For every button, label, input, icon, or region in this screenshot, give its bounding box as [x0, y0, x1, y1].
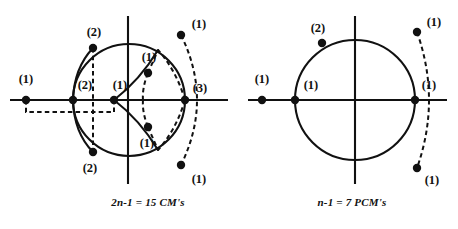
- inner-axis-point-multiplicity-label: (1): [113, 78, 128, 92]
- circle-bottom-left-point-multiplicity-label: (2): [83, 161, 98, 175]
- left-panel-caption: 2n-1 = 15 CM's: [110, 196, 185, 208]
- outer-left-point-multiplicity-label: (1): [255, 72, 270, 86]
- upper-right-outer-point-multiplicity-label: (1): [192, 17, 207, 31]
- upper-inner-point: [144, 69, 152, 77]
- outer-left-point-multiplicity-label: (1): [19, 72, 34, 86]
- circle-left-point-multiplicity-label: (1): [304, 78, 319, 92]
- lower-inner-point-multiplicity-label: (1): [140, 136, 155, 150]
- circle-left-point: [69, 96, 77, 104]
- circle-right-point: [181, 96, 189, 104]
- lower-right-outer-point-multiplicity-label: (1): [425, 173, 440, 187]
- upper-right-outer-point: [177, 31, 185, 39]
- right-panel-caption: n-1 = 7 PCM's: [317, 196, 386, 208]
- circle-upper-left-point-multiplicity-label: (2): [311, 21, 326, 35]
- upper-right-outer-point: [413, 28, 421, 36]
- circle-left-point-multiplicity-label: (2): [78, 78, 93, 92]
- circle-right-point-multiplicity-label: (3): [193, 81, 208, 95]
- circle-bottom-left-point: [89, 148, 97, 156]
- figure-background: [0, 0, 458, 229]
- circle-top-left-point: [89, 44, 97, 52]
- circle-left-point: [291, 96, 299, 104]
- circle-right-point-multiplicity-label: (1): [422, 78, 437, 92]
- lower-right-outer-point-multiplicity-label: (1): [192, 172, 207, 186]
- circle-upper-left-point: [318, 39, 326, 47]
- upper-right-outer-point-multiplicity-label: (1): [427, 15, 442, 29]
- lower-right-outer-point: [413, 164, 421, 172]
- circle-top-left-point-multiplicity-label: (2): [87, 25, 102, 39]
- lower-right-outer-point: [177, 161, 185, 169]
- circle-right-point: [411, 96, 419, 104]
- inner-axis-point: [110, 96, 118, 104]
- zero-pole-diagram-figure: (1)(2)(1)(2)(2)(3)(1)(1)(1)(1)2n-1 = 15 …: [0, 0, 458, 229]
- lower-inner-point: [144, 123, 152, 131]
- upper-inner-point-multiplicity-label: (1): [142, 50, 157, 64]
- outer-left-point: [22, 96, 30, 104]
- outer-left-point: [258, 96, 266, 104]
